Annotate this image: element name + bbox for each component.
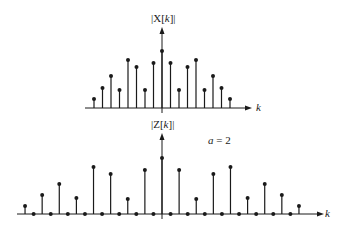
stem-marker xyxy=(271,212,275,216)
stem-marker xyxy=(186,65,190,69)
stem-marker xyxy=(134,212,138,216)
stem-plots-canvas xyxy=(0,0,345,234)
bottom-xlabel: k xyxy=(325,207,330,219)
k-axis-arrow-icon xyxy=(245,106,252,111)
stem-marker xyxy=(288,212,292,216)
stem-marker xyxy=(203,212,207,216)
stem-marker xyxy=(177,168,181,172)
stem-marker xyxy=(169,212,173,216)
bottom-ylabel: |Z[k]| xyxy=(151,118,174,130)
stem-marker xyxy=(254,212,258,216)
stem-marker xyxy=(143,168,147,172)
k-axis-arrow-icon xyxy=(317,212,324,217)
stem-marker xyxy=(211,74,215,78)
stem-marker xyxy=(220,86,224,90)
stem-marker xyxy=(92,165,96,169)
stem-marker xyxy=(228,97,232,101)
stem-marker xyxy=(169,61,173,65)
stem-marker xyxy=(49,212,53,216)
stem-marker xyxy=(211,172,215,176)
stem-marker xyxy=(237,212,241,216)
bottom-ylabel-prefix: |Z[ xyxy=(151,118,164,130)
stem-marker xyxy=(263,182,267,186)
stem-marker xyxy=(109,172,113,176)
stem-marker xyxy=(151,212,155,216)
top-stem-plot xyxy=(85,27,252,113)
stem-marker xyxy=(101,86,105,90)
stem-marker xyxy=(109,74,113,78)
stem-marker xyxy=(143,88,147,92)
stem-marker xyxy=(126,197,130,201)
stem-marker xyxy=(57,182,61,186)
annotation-a-equals-2: a = 2 xyxy=(208,134,231,146)
stem-marker xyxy=(203,88,207,92)
stem-marker xyxy=(194,197,198,201)
top-ylabel-prefix: |X[ xyxy=(151,12,165,24)
stem-marker xyxy=(83,212,87,216)
stem-marker xyxy=(194,58,198,62)
stem-marker xyxy=(118,88,122,92)
stem-marker xyxy=(135,65,139,69)
top-ylabel-suffix: ]| xyxy=(170,12,176,24)
stem-marker xyxy=(126,58,130,62)
top-xlabel: k xyxy=(256,101,261,113)
stem-marker xyxy=(177,88,181,92)
stem-marker xyxy=(246,196,250,200)
bottom-ylabel-suffix: ]| xyxy=(168,118,174,130)
stem-marker xyxy=(100,212,104,216)
annotation-value: = 2 xyxy=(214,134,231,146)
stem-marker xyxy=(220,212,224,216)
stem-marker xyxy=(152,61,156,65)
stem-marker xyxy=(280,193,284,197)
stem-marker xyxy=(160,156,164,160)
stem-marker xyxy=(32,212,36,216)
stem-marker xyxy=(228,165,232,169)
magnitude-axis-arrow-icon xyxy=(160,133,165,140)
magnitude-axis-arrow-icon xyxy=(160,27,165,34)
stem-marker xyxy=(74,196,78,200)
bottom-stem-plot xyxy=(17,133,324,219)
stem-marker xyxy=(23,204,27,208)
stem-marker xyxy=(186,212,190,216)
stem-marker xyxy=(92,97,96,101)
stem-marker xyxy=(160,49,164,53)
top-ylabel: |X[k]| xyxy=(151,12,176,24)
stem-marker xyxy=(40,193,44,197)
stem-marker xyxy=(66,212,70,216)
stem-marker xyxy=(117,212,121,216)
stem-marker xyxy=(297,204,301,208)
